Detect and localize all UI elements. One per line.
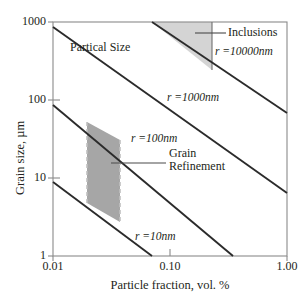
annotation-grain-refinement: Grain Refinement	[169, 147, 225, 172]
y-tick-label-1000: 1000	[8, 15, 46, 28]
x-tick-label-001: 0.01	[33, 260, 73, 273]
y-tick-label-100: 100	[8, 93, 46, 106]
series-label-r10000: r =10000nm	[215, 45, 273, 57]
x-axis-title: Particle fraction, vol. %	[53, 279, 287, 292]
series-label-r100: r =100nm	[131, 132, 177, 144]
series-label-r1000-text: r =1000nm	[167, 91, 219, 103]
series-label-r1000: r =1000nm	[167, 91, 219, 103]
y-axis-title: Grain size, µm	[14, 121, 27, 195]
annotation-grain-refinement-line2: Refinement	[169, 160, 225, 173]
annotation-partical-size: Partical Size	[70, 41, 130, 54]
series-label-r10-text: r =10nm	[135, 230, 176, 242]
x-tick-label-010: 0.10	[150, 260, 190, 273]
series-label-r10: r =10nm	[135, 230, 176, 242]
chart-figure: 1000 100 10 1 Grain size, µm 0.01 0.10 1…	[0, 0, 307, 302]
series-label-r10000-text: r =10000nm	[215, 45, 273, 57]
annotation-grain-refinement-line1: Grain	[169, 147, 225, 160]
series-label-r100-text: r =100nm	[131, 132, 177, 144]
annotation-inclusions: Inclusions	[228, 26, 277, 39]
x-tick-label-100: 1.00	[267, 260, 307, 273]
